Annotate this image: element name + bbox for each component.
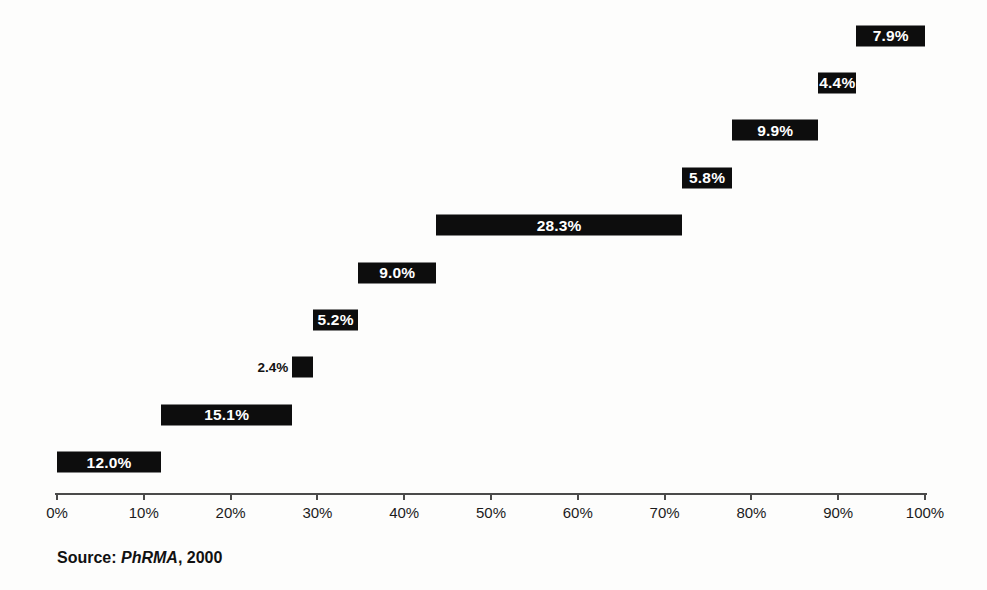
tick-label: 0% [46,504,68,521]
tick-label: 10% [129,504,159,521]
plot-area: 7.9% 4.4% 9.9% 5.8% 28.3% 9.0% [57,0,925,590]
bar: 5.2% [313,309,358,330]
tick-label: 100% [906,504,944,521]
bar-value-label: 7.9% [873,27,909,45]
tick-mark [230,493,232,500]
tick-mark [490,493,492,500]
bar-value-label: 5.2% [318,311,354,329]
bar: 5.8% [682,167,732,188]
bar-row: 9.9% [57,107,925,154]
bar-row: 5.8% [57,154,925,201]
tick-mark [403,493,405,500]
tick-mark [143,493,145,500]
tick-mark [316,493,318,500]
bar: 9.9% [732,120,818,141]
tick-mark [664,493,666,500]
tick-label: 50% [476,504,506,521]
bar: 9.0% [358,262,436,283]
bar-row: 28.3% [57,202,925,249]
bar-row: 7.9% [57,12,925,59]
bar: 28.3% [436,215,682,236]
bar-value-label: 4.4% [819,74,855,92]
bar-value-label: 12.0% [87,453,132,471]
bar-value-label: 9.9% [757,121,793,139]
bar: 4.4% [818,72,856,93]
bar-row: 9.0% [57,249,925,296]
source-name: PhRMA [121,549,178,566]
source-suffix: , 2000 [178,549,222,566]
bar-row: 5.2% [57,296,925,343]
bar-value-label: 9.0% [379,264,415,282]
bar-value-label: 28.3% [537,216,582,234]
bar: 7.9% [856,25,925,46]
bar-row: 12.0% [57,439,925,486]
bar-value-label: 15.1% [204,406,249,424]
bar-row: 4.4% [57,59,925,106]
bar-row: 2.4% [57,344,925,391]
drug-development-cost-chart: 7.9% 4.4% 9.9% 5.8% 28.3% 9.0% [0,0,987,590]
tick-mark [56,493,58,500]
bar [292,357,313,378]
source-note: Source: PhRMA, 2000 [57,549,222,567]
bar-row: 15.1% [57,391,925,438]
tick-mark [924,493,926,500]
tick-label: 40% [389,504,419,521]
tick-label: 80% [736,504,766,521]
bar: 15.1% [161,404,292,425]
tick-mark [837,493,839,500]
tick-mark [750,493,752,500]
tick-label: 70% [650,504,680,521]
outside-value-label: 2.4% [257,344,288,391]
tick-label: 20% [216,504,246,521]
bar-value-label: 5.8% [689,169,725,187]
tick-label: 30% [302,504,332,521]
tick-label: 90% [823,504,853,521]
tick-mark [577,493,579,500]
source-prefix: Source: [57,549,121,566]
bar: 12.0% [57,452,161,473]
tick-label: 60% [563,504,593,521]
